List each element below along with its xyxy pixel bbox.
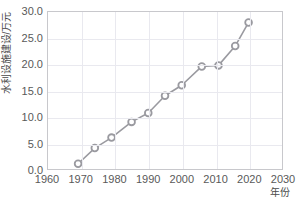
- gridline-horizontal: [48, 39, 282, 40]
- y-axis-tick-labels: 0.05.010.015.020.025.030.0: [7, 11, 43, 170]
- gridline-horizontal: [48, 145, 282, 146]
- y-axis-tick-label: 30.0: [9, 6, 43, 17]
- gridline-vertical: [250, 12, 251, 169]
- plot-area: [47, 11, 283, 170]
- x-axis-tick-label: 2010: [203, 174, 227, 185]
- x-axis-tick-label: 1970: [68, 174, 92, 185]
- x-axis-title: 年份: [270, 188, 290, 198]
- data-point-marker: [128, 119, 135, 126]
- gridline-vertical: [82, 12, 83, 169]
- y-axis-tick-label: 15.0: [9, 85, 43, 96]
- x-axis-tick-label: 2020: [237, 174, 261, 185]
- data-point-marker: [91, 145, 98, 152]
- y-axis-tick-label: 20.0: [9, 59, 43, 70]
- data-point-marker: [232, 43, 239, 50]
- x-axis-tick-labels: 19601970198019902000201020202030: [47, 174, 283, 188]
- y-axis-tick-label: 5.0: [9, 138, 43, 149]
- gridline-vertical: [115, 12, 116, 169]
- gridline-vertical: [217, 12, 218, 169]
- data-point-marker: [162, 92, 169, 99]
- x-axis-tick-label: 1990: [136, 174, 160, 185]
- x-axis-tick-label: 2030: [271, 174, 295, 185]
- x-axis-tick-label: 2000: [170, 174, 194, 185]
- gridline-vertical: [183, 12, 184, 169]
- data-point-marker: [108, 134, 115, 141]
- gridline-horizontal: [48, 65, 282, 66]
- x-axis-tick-label: 1960: [35, 174, 59, 185]
- gridline-horizontal: [48, 118, 282, 119]
- data-point-marker: [178, 82, 185, 89]
- y-axis-tick-label: 25.0: [9, 32, 43, 43]
- gridline-horizontal: [48, 92, 282, 93]
- x-axis-tick-label: 1980: [102, 174, 126, 185]
- y-axis-tick-label: 10.0: [9, 112, 43, 123]
- data-point-marker: [75, 160, 82, 167]
- y-axis-title: 水利设施建设/万元: [2, 0, 12, 108]
- gridline-vertical: [149, 12, 150, 169]
- chart-screenshot: 0.05.010.015.020.025.030.0 1960197019801…: [0, 0, 296, 203]
